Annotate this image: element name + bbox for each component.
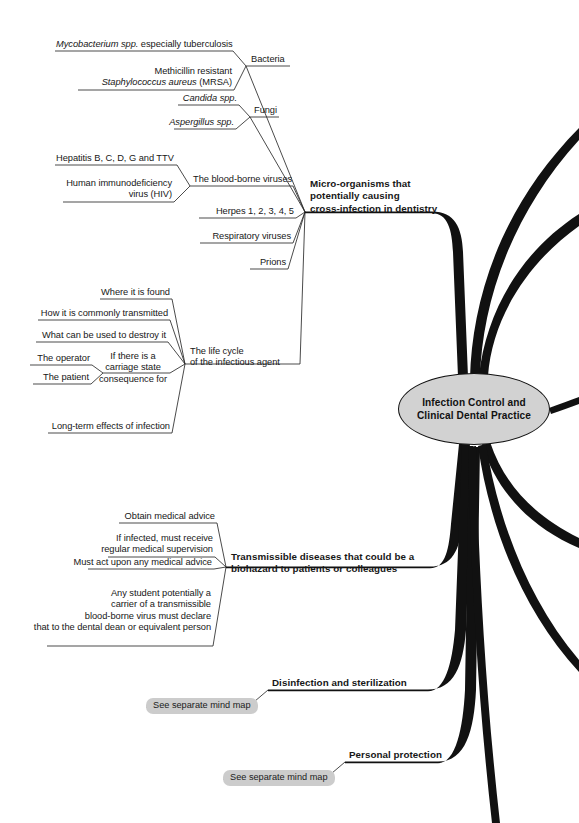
- micro-organisms-line-3: cross-infection in dentistry: [310, 203, 437, 214]
- mycobacterium-italic: Mycobacterium spp.: [56, 39, 138, 49]
- node-mrsa[interactable]: Methicillin resistant Staphylococcus aur…: [0, 66, 232, 89]
- see-separate-mind-map-disinfection[interactable]: See separate mind map: [146, 698, 258, 714]
- node-act-upon-advice[interactable]: Must act upon any medical advice: [0, 557, 212, 568]
- central-topic-node[interactable]: Infection Control and Clinical Dental Pr…: [398, 373, 550, 445]
- node-long-term-effects[interactable]: Long-term effects of infection: [0, 421, 170, 432]
- hiv-line-1: Human immunodeficiency: [66, 178, 172, 188]
- node-declare-carrier[interactable]: Any student potentially a carrier of a t…: [0, 588, 211, 634]
- see-separate-mind-map-personal-protection[interactable]: See separate mind map: [223, 770, 335, 786]
- node-bacteria[interactable]: Bacteria: [251, 54, 285, 65]
- node-hepatitis[interactable]: Hepatitis B, C, D, G and TTV: [56, 153, 174, 164]
- declare-line-1: Any student potentially a: [111, 588, 211, 598]
- branch-label-life-cycle[interactable]: The life cycle of the infectious agent: [190, 346, 280, 369]
- declare-line-3: blood-borne virus must declare: [85, 611, 211, 621]
- branch-label-personal-protection[interactable]: Personal protection: [349, 749, 442, 761]
- hiv-line-2: virus (HIV): [129, 189, 172, 199]
- micro-organisms-line-1: Micro-organisms that: [310, 178, 411, 189]
- transmissible-line-1: Transmissible diseases that could be a: [231, 551, 414, 562]
- central-topic-line-1: Infection Control and: [422, 397, 526, 408]
- life-cycle-line-1: The life cycle: [190, 346, 244, 356]
- mrsa-italic: Staphylococcus aureus: [102, 77, 197, 87]
- transmissible-line-2: biohazard to patients or colleagues: [231, 563, 397, 574]
- node-prions[interactable]: Prions: [0, 257, 286, 268]
- node-where-found[interactable]: Where it is found: [0, 287, 170, 298]
- node-destroy[interactable]: What can be used to destroy it: [0, 330, 166, 341]
- node-carriage-state[interactable]: If there is a carriage state consequence…: [97, 351, 169, 385]
- node-respiratory-viruses[interactable]: Respiratory viruses: [0, 231, 291, 242]
- central-topic-label: Infection Control and Clinical Dental Pr…: [417, 396, 531, 422]
- branch-label-disinfection[interactable]: Disinfection and sterilization: [272, 677, 407, 689]
- supervision-line-1: If infected, must receive: [116, 533, 213, 543]
- carriage-line-1: If there is a: [110, 351, 155, 361]
- branch-label-transmissible-diseases[interactable]: Transmissible diseases that could be a b…: [231, 551, 414, 576]
- carriage-line-3: consequence for: [99, 374, 167, 384]
- node-medical-supervision[interactable]: If infected, must receive regular medica…: [0, 533, 213, 556]
- node-aspergillus[interactable]: Aspergillus spp.: [0, 117, 234, 128]
- node-blood-borne-viruses[interactable]: The blood-borne viruses: [193, 174, 292, 185]
- declare-line-2: carrier of a transmissible: [111, 599, 211, 609]
- micro-organisms-line-2: potentially causing: [310, 190, 400, 201]
- node-fungi[interactable]: Fungi: [254, 105, 277, 116]
- node-the-patient[interactable]: The patient: [0, 372, 89, 383]
- node-how-transmitted[interactable]: How it is commonly transmitted: [0, 308, 168, 319]
- node-hiv[interactable]: Human immunodeficiency virus (HIV): [0, 178, 172, 201]
- declare-line-4: that to the dental dean or equivalent pe…: [34, 622, 211, 632]
- mind-map-canvas: Infection Control and Clinical Dental Pr…: [0, 0, 579, 823]
- carriage-line-2: carriage state: [105, 362, 161, 372]
- supervision-line-2: regular medical supervision: [101, 544, 213, 554]
- node-candida[interactable]: Candida spp.: [0, 93, 237, 104]
- node-herpes[interactable]: Herpes 1, 2, 3, 4, 5: [0, 206, 294, 217]
- node-the-operator[interactable]: The operator: [0, 353, 90, 364]
- node-obtain-medical-advice[interactable]: Obtain medical advice: [0, 511, 215, 522]
- mrsa-line-1: Methicillin resistant: [155, 66, 232, 76]
- branch-label-micro-organisms[interactable]: Micro-organisms that potentially causing…: [310, 178, 437, 215]
- life-cycle-line-2: of the infectious agent: [190, 357, 280, 367]
- node-mycobacterium[interactable]: Mycobacterium spp. especially tuberculos…: [56, 39, 233, 50]
- central-topic-line-2: Clinical Dental Practice: [417, 410, 531, 421]
